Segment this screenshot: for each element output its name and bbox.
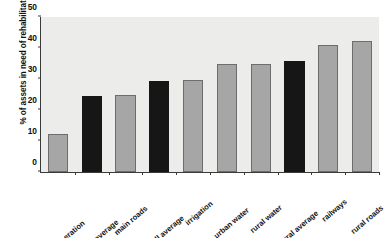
x-tick-mark-4 bbox=[210, 172, 211, 175]
x-tick-mark-6 bbox=[278, 172, 279, 175]
x-tick-label-rural-average: rural average bbox=[277, 209, 319, 238]
bar-rural-average bbox=[284, 61, 304, 172]
x-tick-label-urban-water: urban water bbox=[212, 206, 251, 238]
y-tick-label-20: 20 bbox=[28, 95, 37, 105]
y-tick-label-30: 30 bbox=[28, 64, 37, 74]
bar-overall-average bbox=[149, 81, 169, 172]
bar-irrigation bbox=[183, 80, 203, 172]
x-tick-label-rural-roads: rural roads bbox=[349, 204, 385, 236]
x-tick-mark-0 bbox=[75, 172, 76, 175]
x-tick-mark-1 bbox=[109, 172, 110, 175]
x-tick-mark-9 bbox=[379, 172, 380, 175]
y-tick-label-10: 10 bbox=[28, 126, 37, 136]
bar-rural-water bbox=[251, 64, 271, 172]
bar-main-roads bbox=[115, 95, 135, 172]
bar-urban-water bbox=[217, 64, 237, 172]
y-axis-title: % of assets in need of rehabilitation bbox=[19, 0, 28, 142]
bar-power-generation bbox=[48, 134, 68, 172]
bar-chart-figure: % of assets in need of rehabilitation 01… bbox=[0, 0, 390, 238]
y-tick-label-50: 50 bbox=[28, 2, 37, 12]
bar-railways bbox=[318, 45, 338, 172]
bar-series bbox=[41, 17, 379, 172]
x-tick-label-overall-average: overall average bbox=[138, 214, 186, 238]
x-tick-mark-7 bbox=[311, 172, 312, 175]
x-tick-mark-2 bbox=[142, 172, 143, 175]
x-tick-label-irrigation: irrigation bbox=[184, 199, 215, 227]
x-tick-mark-5 bbox=[244, 172, 245, 175]
bar-nonrural-average bbox=[82, 96, 102, 172]
x-tick-label-power-generation: power generation bbox=[32, 219, 86, 238]
x-tick-mark-3 bbox=[176, 172, 177, 175]
x-tick-mark-8 bbox=[345, 172, 346, 175]
x-tick-label-rural-water: rural water bbox=[248, 203, 284, 235]
y-tick-label-0: 0 bbox=[32, 157, 37, 167]
x-tick-label-railways: railways bbox=[320, 197, 349, 223]
plot-area: 01020304050 bbox=[40, 17, 379, 173]
bar-rural-roads bbox=[352, 41, 372, 172]
y-tick-label-40: 40 bbox=[28, 33, 37, 43]
